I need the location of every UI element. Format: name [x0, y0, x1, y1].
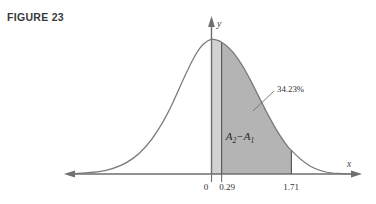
percent-annotation: 34.23% [277, 84, 305, 94]
x-axis-right-arrowhead [351, 171, 362, 178]
y-axis-label: y [216, 19, 222, 29]
tick-label-029: 0.29 [219, 182, 235, 192]
y-axis-arrowhead [208, 16, 215, 27]
tick-label-171: 1.71 [283, 182, 299, 192]
region-label-a1-sub: 1 [250, 136, 254, 145]
region-label-minus: − [236, 130, 243, 142]
figure-container: FIGURE 23 y x 0 0.29 1.71 [0, 0, 376, 204]
tick-label-0: 0 [204, 182, 209, 192]
normal-curve-chart: y x 0 0.29 1.71 34.23% A2−A1 [0, 0, 376, 204]
shaded-region-a1 [212, 39, 222, 174]
x-axis-label: x [346, 159, 352, 169]
